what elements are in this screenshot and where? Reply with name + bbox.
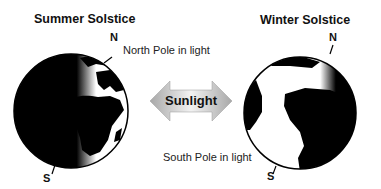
summer-annotation: North Pole in light — [123, 44, 210, 56]
sunlight-label: Sunlight — [165, 93, 217, 108]
summer-globe — [14, 54, 128, 174]
summer-north-label: N — [110, 31, 118, 43]
winter-south-label: S — [267, 170, 274, 182]
winter-annotation: South Pole in light — [163, 151, 252, 163]
winter-solstice-title: Winter Solstice — [260, 13, 350, 27]
summer-south-label: S — [43, 172, 50, 184]
winter-globe — [244, 45, 356, 174]
summer-solstice-title: Summer Solstice — [34, 12, 135, 26]
winter-north-label: N — [329, 31, 337, 43]
